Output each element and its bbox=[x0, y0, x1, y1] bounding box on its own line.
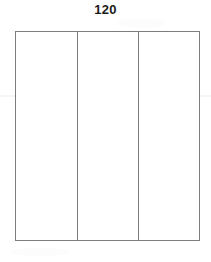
dimension-label-120: 120 bbox=[0, 2, 211, 17]
panel-bay-left bbox=[16, 32, 77, 240]
panel-diagram-figure: 120 bbox=[0, 0, 211, 262]
panel-bay-center bbox=[77, 32, 138, 240]
panel-outline-rectangle bbox=[15, 31, 200, 241]
paper-smudge-bottom bbox=[10, 248, 70, 256]
paper-smudge-top bbox=[118, 18, 164, 28]
panel-bay-right bbox=[138, 32, 199, 240]
